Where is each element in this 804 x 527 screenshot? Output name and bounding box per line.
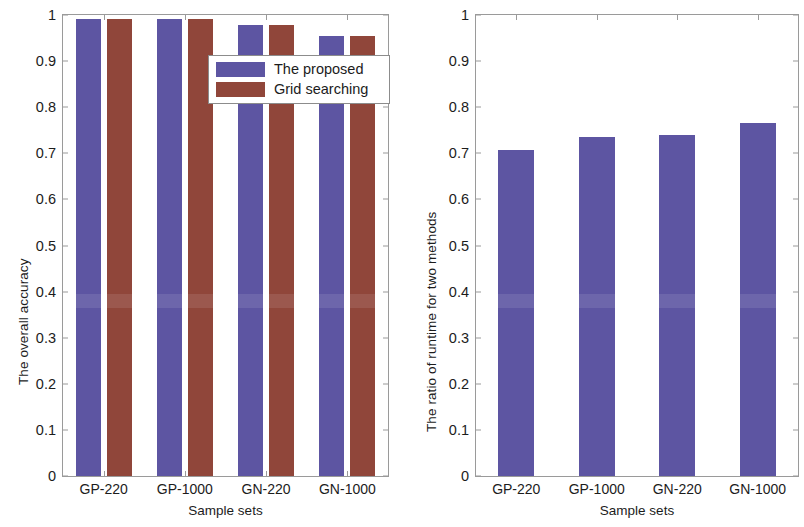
x-tick-mark	[516, 15, 517, 20]
y-tick-label: 0.7	[449, 145, 469, 161]
legend-label-proposed: The proposed	[274, 62, 363, 77]
y-tick-mark	[476, 476, 481, 477]
y-tick-label: 0.4	[449, 284, 469, 300]
bar	[107, 19, 132, 476]
y-tick-mark	[63, 245, 68, 246]
y-tick-label: 0.1	[36, 422, 56, 438]
y-tick-mark	[383, 476, 388, 477]
x-tick-mark	[597, 15, 598, 20]
y-tick-mark	[63, 337, 68, 338]
y-tick-label: 0.3	[449, 330, 469, 346]
y-tick-mark	[383, 15, 388, 16]
y-axis-label-runtime: The ratio of runtime for two methods	[424, 212, 439, 432]
x-axis-label-accuracy: Sample sets	[62, 503, 389, 518]
y-tick-mark	[793, 383, 798, 384]
y-tick-mark	[63, 291, 68, 292]
y-tick-mark	[793, 291, 798, 292]
y-tick-mark	[793, 337, 798, 338]
y-tick-mark	[476, 199, 481, 200]
x-tick-label: GN-1000	[319, 481, 376, 497]
y-tick-label: 0.6	[36, 191, 56, 207]
x-tick-label: GP-1000	[157, 481, 213, 497]
x-tick-label: GP-1000	[569, 481, 625, 497]
bar	[498, 150, 534, 476]
x-tick-mark	[677, 15, 678, 20]
y-tick-mark	[793, 153, 798, 154]
y-tick-label: 0.7	[36, 145, 56, 161]
y-tick-label: 0.9	[449, 53, 469, 69]
panel-overall-accuracy: The overall accuracy 00.10.20.30.40.50.6…	[0, 0, 402, 527]
y-tick-label: 0	[461, 468, 469, 484]
bar	[740, 123, 776, 476]
y-tick-mark	[63, 153, 68, 154]
legend-accuracy: The proposed Grid searching	[208, 55, 390, 104]
y-tick-label: 0.8	[36, 99, 56, 115]
y-tick-mark	[63, 15, 68, 16]
y-tick-mark	[383, 107, 388, 108]
y-tick-mark	[476, 61, 481, 62]
y-tick-label: 1	[461, 7, 469, 23]
panel-runtime-ratio: The ratio of runtime for two methods 00.…	[402, 0, 804, 527]
y-tick-mark	[63, 383, 68, 384]
y-tick-label: 0.8	[449, 99, 469, 115]
x-tick-mark	[185, 471, 186, 476]
y-tick-label: 0.2	[36, 376, 56, 392]
y-axis-label-accuracy: The overall accuracy	[16, 258, 31, 385]
y-tick-mark	[63, 199, 68, 200]
bar	[157, 19, 182, 476]
y-tick-mark	[793, 476, 798, 477]
x-tick-mark	[266, 471, 267, 476]
legend-label-grid-searching: Grid searching	[274, 82, 368, 97]
y-tick-mark	[383, 199, 388, 200]
x-tick-mark	[266, 15, 267, 20]
x-tick-mark	[758, 15, 759, 20]
x-tick-mark	[185, 15, 186, 20]
y-tick-label: 0.6	[449, 191, 469, 207]
y-tick-label: 0.5	[36, 238, 56, 254]
y-tick-mark	[793, 429, 798, 430]
x-tick-mark	[347, 471, 348, 476]
y-tick-mark	[383, 383, 388, 384]
y-tick-mark	[476, 337, 481, 338]
x-tick-mark	[104, 15, 105, 20]
y-tick-label: 1	[48, 7, 56, 23]
y-tick-mark	[793, 107, 798, 108]
y-tick-label: 0.1	[449, 422, 469, 438]
y-tick-mark	[63, 61, 68, 62]
x-tick-label: GN-220	[242, 481, 291, 497]
bar	[76, 19, 101, 476]
figure-two-bar-charts: The overall accuracy 00.10.20.30.40.50.6…	[0, 0, 804, 527]
y-tick-mark	[476, 15, 481, 16]
x-tick-label: GN-1000	[729, 481, 786, 497]
x-tick-mark	[347, 15, 348, 20]
legend-swatch-grid-searching	[216, 82, 265, 97]
bar	[659, 135, 695, 476]
y-tick-mark	[793, 15, 798, 16]
y-tick-mark	[383, 337, 388, 338]
y-tick-mark	[793, 61, 798, 62]
y-tick-label: 0.3	[36, 330, 56, 346]
y-tick-label: 0.2	[449, 376, 469, 392]
y-tick-mark	[383, 291, 388, 292]
bar	[579, 137, 615, 476]
legend-swatch-proposed	[216, 62, 265, 77]
y-tick-mark	[476, 429, 481, 430]
x-axis-label-runtime: Sample sets	[475, 503, 799, 518]
y-tick-mark	[476, 291, 481, 292]
y-tick-mark	[476, 245, 481, 246]
y-tick-label: 0.5	[449, 238, 469, 254]
y-tick-label: 0	[48, 468, 56, 484]
y-tick-mark	[476, 107, 481, 108]
y-tick-mark	[63, 107, 68, 108]
y-tick-mark	[383, 429, 388, 430]
x-tick-label: GP-220	[492, 481, 540, 497]
y-tick-mark	[793, 245, 798, 246]
plot-area-runtime: 00.10.20.30.40.50.60.70.80.91GP-220GP-10…	[475, 14, 799, 477]
legend-entry-proposed: The proposed	[216, 62, 381, 77]
legend-entry-grid-searching: Grid searching	[216, 82, 381, 97]
y-tick-mark	[476, 383, 481, 384]
y-tick-mark	[63, 476, 68, 477]
y-tick-label: 0.4	[36, 284, 56, 300]
y-tick-mark	[63, 429, 68, 430]
y-tick-mark	[383, 245, 388, 246]
